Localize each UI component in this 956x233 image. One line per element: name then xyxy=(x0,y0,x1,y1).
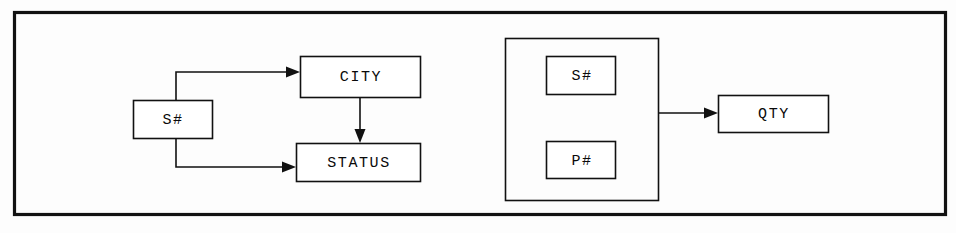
arrowhead xyxy=(355,129,366,143)
arrowhead xyxy=(286,67,300,78)
edge-group-to-qty xyxy=(658,108,718,119)
node-label: S# xyxy=(162,112,183,129)
node-s-left[interactable]: S# xyxy=(134,101,213,139)
arrowhead xyxy=(282,162,296,173)
diagram-canvas: S# CITY STATUS S# P# QTY xyxy=(0,0,956,233)
arrowhead xyxy=(704,108,718,119)
node-status[interactable]: STATUS xyxy=(297,144,421,182)
node-p-grouped[interactable]: P# xyxy=(547,142,616,179)
node-label: STATUS xyxy=(327,155,391,172)
node-label: S# xyxy=(571,68,592,85)
functional-dependency-diagram: S# CITY STATUS S# P# QTY xyxy=(0,0,956,233)
node-qty[interactable]: QTY xyxy=(719,96,829,133)
node-label: P# xyxy=(571,153,592,170)
edge-city-to-status xyxy=(355,97,366,143)
node-s-grouped[interactable]: S# xyxy=(547,57,616,95)
node-label: QTY xyxy=(758,106,790,123)
node-city[interactable]: CITY xyxy=(301,57,421,98)
node-label: CITY xyxy=(340,69,382,86)
